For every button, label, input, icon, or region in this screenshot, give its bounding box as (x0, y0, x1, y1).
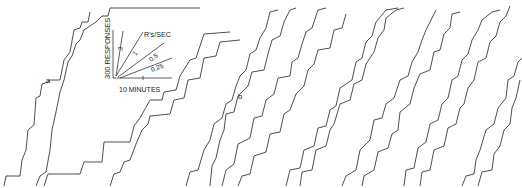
cumulative-record-16 (478, 80, 520, 186)
cumulative-record-11 (342, 10, 436, 186)
annotation-a: a (46, 76, 51, 85)
cumulative-record-10 (300, 8, 404, 186)
inset-ylabel: 300 RESPONSES (103, 18, 112, 79)
rate-scale-inset: 300 RESPONSES 10 MINUTES R's/SEC 3 1 0.5… (103, 18, 172, 93)
cumulative-record-14 (420, 6, 510, 186)
cumulative-record-8 (238, 14, 346, 186)
annotation-b: b (238, 92, 242, 101)
cumulative-record-13 (404, 10, 500, 186)
inset-xlabel: 10 MINUTES (119, 86, 161, 93)
cumulative-record-9 (286, 8, 398, 186)
cumulative-record-1 (4, 12, 90, 186)
cumulative-record-12 (362, 12, 460, 186)
inset-rate-header: R's/SEC (144, 30, 171, 39)
cumulative-records-figure: 300 RESPONSES 10 MINUTES R's/SEC 3 1 0.5… (0, 0, 522, 188)
cumulative-record-curves (4, 6, 522, 186)
cumulative-record-5 (186, 10, 278, 186)
